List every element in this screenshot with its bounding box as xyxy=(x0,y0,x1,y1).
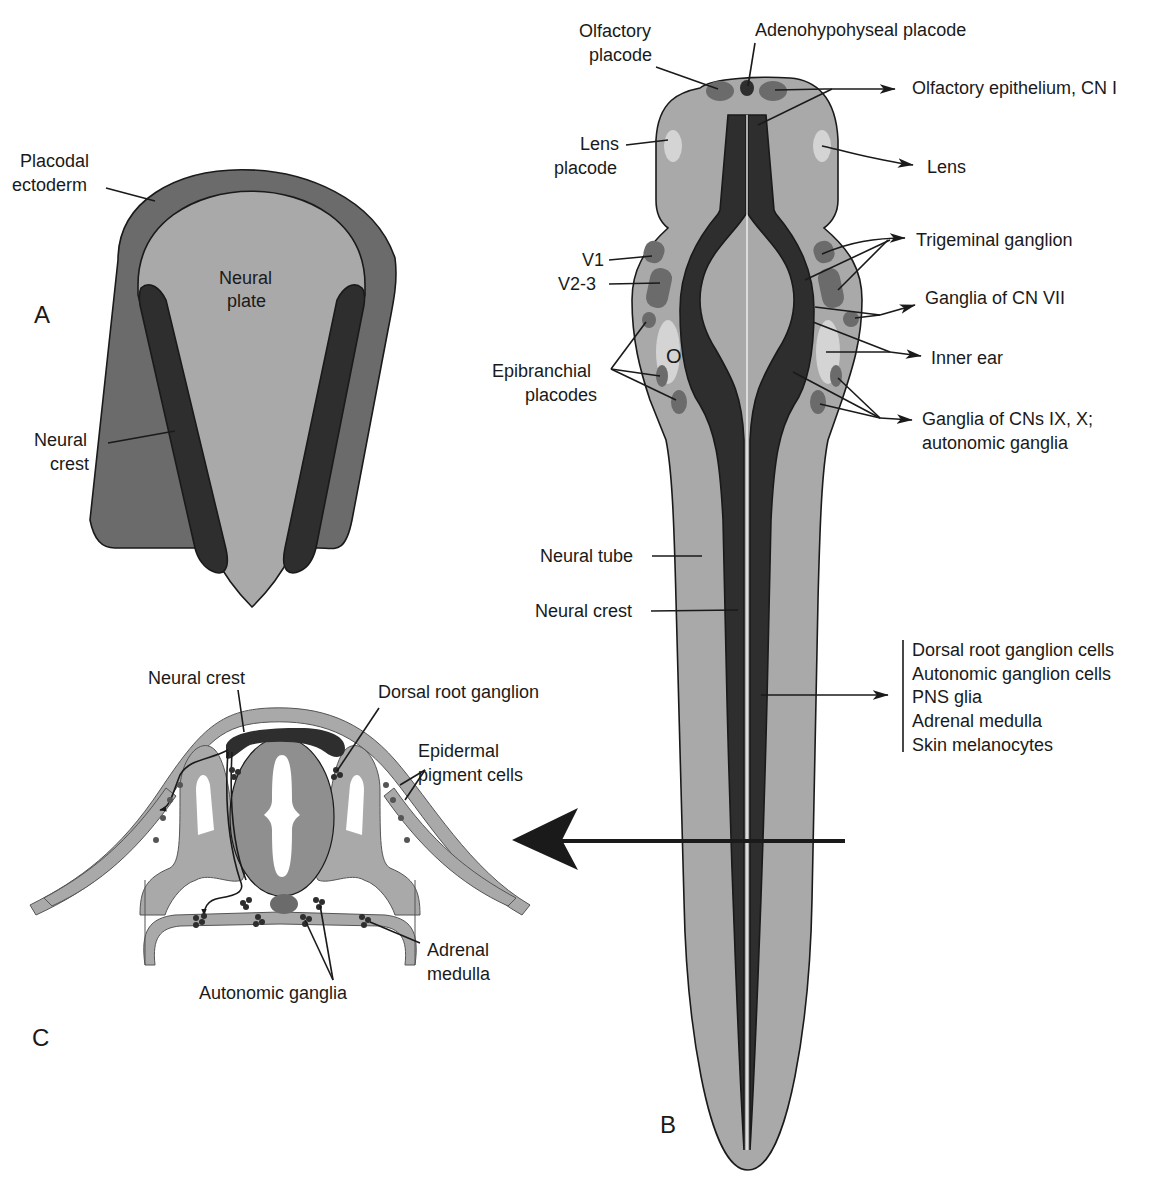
panel-b-letter: B xyxy=(660,1111,676,1138)
label-v1: V1 xyxy=(582,250,604,270)
label-trigeminal-ganglion: Trigeminal ganglion xyxy=(916,230,1072,250)
label-neural-plate-line2: plate xyxy=(227,291,266,311)
olfactory-epithelium-leader-1 xyxy=(775,89,825,90)
label-olfactory-epithelium: Olfactory epithelium, CN I xyxy=(912,78,1117,98)
neural-crest-b-leader xyxy=(651,610,738,611)
panel-a-letter: A xyxy=(34,301,50,328)
neural-crest-placode-diagram: A Placodal ectoderm Neural plate Neural … xyxy=(0,0,1173,1198)
lens-placode-left xyxy=(664,130,682,162)
epibranchial-placode-2-right xyxy=(830,365,842,387)
label-placodal-ectoderm-line2: ectoderm xyxy=(12,175,87,195)
label-lens-placode-line2: placode xyxy=(554,158,617,178)
label-adrenal-medulla-line2: medulla xyxy=(427,964,491,984)
derivative-item: Autonomic ganglion cells xyxy=(912,664,1111,684)
label-adrenal-medulla-line1: Adrenal xyxy=(427,940,489,960)
ganglia-cn-vii-placode-right xyxy=(843,311,859,327)
derivative-item: PNS glia xyxy=(912,687,983,707)
derivative-item: Dorsal root ganglion cells xyxy=(912,640,1114,660)
inner-ear-arrow xyxy=(890,352,921,356)
epibranchial-placode-3-left xyxy=(671,390,687,414)
label-autonomic-ganglia: Autonomic ganglia xyxy=(199,983,348,1003)
label-epidermal-pigment-line1: Epidermal xyxy=(418,741,499,761)
label-epibranchial-line2: placodes xyxy=(525,385,597,405)
label-neural-tube: Neural tube xyxy=(540,546,633,566)
label-adenohypophyseal-placode: Adenohypohyseal placode xyxy=(755,20,966,40)
notochord xyxy=(270,894,298,914)
label-ganglia-ix-x-line2: autonomic ganglia xyxy=(922,433,1069,453)
epibranchial-placode-3-right xyxy=(810,390,826,414)
label-olfactory-placode-line1: Olfactory xyxy=(579,21,651,41)
derivative-item: Skin melanocytes xyxy=(912,735,1053,755)
label-neural-crest-a-line1: Neural xyxy=(34,430,87,450)
label-dorsal-root-ganglion: Dorsal root ganglion xyxy=(378,682,539,702)
label-epibranchial-line1: Epibranchial xyxy=(492,361,591,381)
olfactory-placode-left xyxy=(706,81,734,101)
olfactory-placode-leader xyxy=(656,67,718,89)
label-epidermal-pigment-line2: pigment cells xyxy=(418,765,523,785)
label-lens-placode-line1: Lens xyxy=(580,134,619,154)
v2-3-leader xyxy=(609,283,660,284)
panel-c-letter: C xyxy=(32,1024,49,1051)
olfactory-placode-right xyxy=(759,81,787,101)
label-v2-3: V2-3 xyxy=(558,274,596,294)
ix-x-leader-2 xyxy=(838,378,880,418)
label-ganglia-ix-x-line1: Ganglia of CNs IX, X; xyxy=(922,409,1093,429)
label-otic: O xyxy=(666,345,682,367)
label-lens: Lens xyxy=(927,157,966,177)
label-inner-ear: Inner ear xyxy=(931,348,1003,368)
label-neural-plate-line1: Neural xyxy=(219,268,272,288)
panel-a: A Placodal ectoderm Neural plate Neural … xyxy=(12,151,396,607)
panel-b: Olfactory placode Adenohypohyseal placod… xyxy=(492,20,1117,1170)
label-neural-crest-c: Neural crest xyxy=(148,668,245,688)
panel-c: Neural crest Dorsal root ganglion Epider… xyxy=(30,668,539,1051)
label-neural-crest-b: Neural crest xyxy=(535,601,632,621)
ix-x-arrow xyxy=(880,418,912,420)
derivative-item: Adrenal medulla xyxy=(912,711,1043,731)
label-olfactory-placode-line2: placode xyxy=(589,45,652,65)
label-ganglia-cn-vii: Ganglia of CN VII xyxy=(925,288,1065,308)
label-neural-crest-a-line2: crest xyxy=(50,454,89,474)
cn-vii-arrow xyxy=(880,305,915,315)
placodal-ectoderm-leader xyxy=(106,188,155,201)
adenohypophyseal-placode xyxy=(740,80,754,96)
autonomic-leader-1 xyxy=(305,920,333,980)
body-wall-lower xyxy=(144,912,417,965)
label-placodal-ectoderm-line1: Placodal xyxy=(20,151,89,171)
